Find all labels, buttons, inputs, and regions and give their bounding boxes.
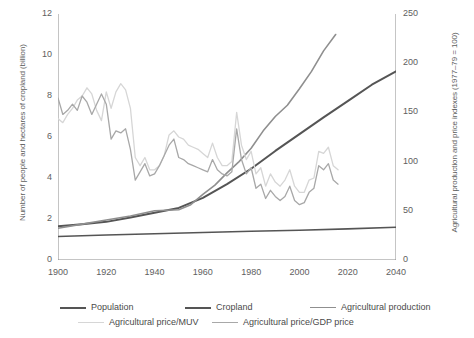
legend-item-label: Agricultural price/MUV [109, 317, 199, 328]
x-axis-tick-label: 1920 [86, 267, 126, 277]
y-axis-right-tick-label: 100 [403, 156, 433, 166]
legend-item[interactable]: Population [60, 302, 134, 313]
y-axis-right-tick-label: 200 [403, 57, 433, 67]
legend-item-label: Agricultural price/GDP price [243, 317, 354, 328]
legend-swatch-line-icon [310, 307, 336, 308]
legend-row-primary: PopulationCroplandAgricultural productio… [0, 302, 474, 317]
x-axis-tick-label: 1940 [135, 267, 175, 277]
y-axis-right-tick-label: 50 [403, 205, 433, 215]
legend-item[interactable]: Cropland [185, 302, 253, 313]
legend-item[interactable]: Agricultural price/GDP price [212, 317, 354, 328]
x-axis-tick-label: 2020 [328, 267, 368, 277]
y-axis-left-tick-label: 4 [26, 172, 52, 182]
legend-swatch-line-icon [212, 322, 238, 323]
x-axis-tick-label: 1980 [231, 267, 271, 277]
x-axis-tick-label: 1960 [183, 267, 223, 277]
y-axis-right-tick-label: 150 [403, 106, 433, 116]
legend-item-label: Cropland [216, 302, 253, 313]
x-axis-tick-label: 2040 [376, 267, 416, 277]
plot-area [58, 14, 396, 260]
y-axis-left-tick-label: 8 [26, 90, 52, 100]
legend-item[interactable]: Agricultural price/MUV [78, 317, 199, 328]
series-canvas [58, 14, 396, 260]
y-axis-right-title: Agricultural production and price indexe… [450, 18, 459, 248]
legend-item[interactable]: Agricultural production [310, 302, 431, 313]
y-axis-left-tick-label: 6 [26, 131, 52, 141]
x-axis-tick-label: 2000 [279, 267, 319, 277]
chart-container: Number of people and hectares of croplan… [0, 0, 474, 338]
y-axis-left-tick-label: 2 [26, 213, 52, 223]
legend-item-label: Agricultural production [341, 302, 431, 313]
legend-swatch-line-icon [78, 322, 104, 323]
y-axis-left-tick-label: 0 [26, 254, 52, 264]
y-axis-right-tick-label: 0 [403, 254, 433, 264]
y-axis-right-tick-label: 250 [403, 8, 433, 18]
legend-swatch-line-icon [60, 307, 86, 309]
x-axis-tick-label: 1900 [38, 267, 78, 277]
y-axis-left-tick-label: 10 [26, 49, 52, 59]
legend-item-label: Population [91, 302, 134, 313]
y-axis-left-tick-label: 12 [26, 8, 52, 18]
legend-row-secondary: Agricultural price/MUVAgricultural price… [0, 317, 474, 332]
legend-swatch-line-icon [185, 307, 211, 309]
